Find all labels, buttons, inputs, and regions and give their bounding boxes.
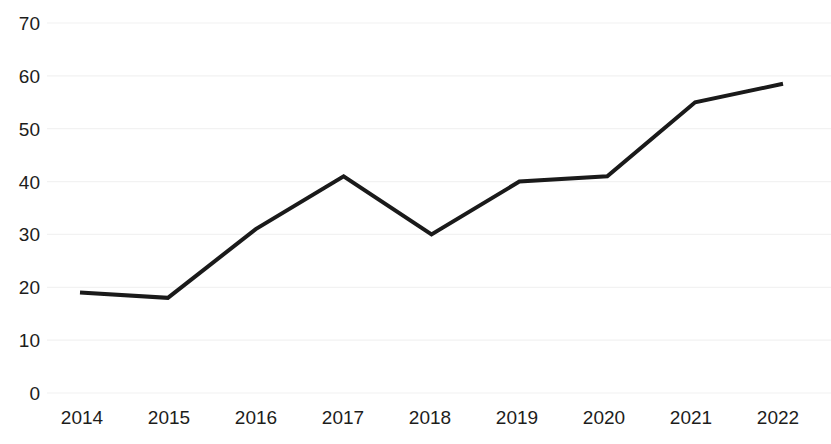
line-chart: 010203040506070 201420152016201720182019… (0, 0, 831, 444)
y-tick-label: 50 (6, 119, 40, 138)
plot-area (0, 0, 831, 444)
y-tick-label: 20 (6, 278, 40, 297)
data-series-group (80, 84, 783, 298)
y-tick-label: 70 (6, 14, 40, 33)
data-line (80, 84, 783, 298)
y-tick-label: 60 (6, 66, 40, 85)
y-axis: 010203040506070 (0, 0, 40, 444)
gridlines (47, 23, 831, 393)
y-tick-label: 10 (6, 331, 40, 350)
y-tick-label: 0 (6, 384, 40, 403)
y-tick-label: 30 (6, 225, 40, 244)
y-tick-label: 40 (6, 172, 40, 191)
